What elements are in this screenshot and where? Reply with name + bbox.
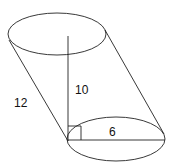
oblique-cylinder-diagram: 12 10 6 [0,0,173,166]
right-angle-marker [68,126,81,140]
height-label: 10 [75,83,89,97]
slant-height-label: 12 [14,96,28,110]
bottom-base-ellipse [67,117,165,161]
radius-label: 6 [109,125,116,139]
top-base-ellipse [8,13,106,55]
